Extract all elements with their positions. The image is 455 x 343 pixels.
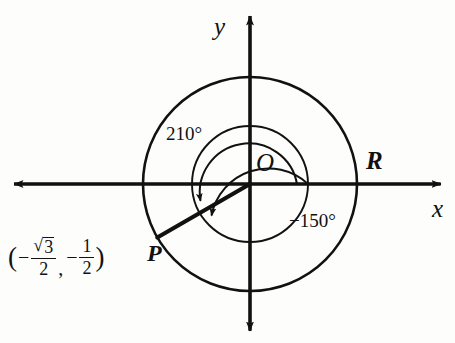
- coord-x-fraction: √3 2: [31, 236, 56, 278]
- coord-x-radicand: 3: [43, 237, 54, 257]
- coord-y-denominator: 2: [79, 257, 94, 278]
- coord-y-fraction: 1 2: [79, 237, 94, 277]
- point-p-coordinates: ( − √3 2 , − 1 2 ): [8, 236, 104, 278]
- origin-label: O: [256, 150, 274, 175]
- coord-y-numerator: 1: [80, 237, 93, 257]
- coord-x-negative-sign: −: [17, 247, 30, 267]
- point-p-label: P: [147, 241, 162, 265]
- terminal-ray-op: [157, 184, 250, 238]
- angle-label-positive: 210°: [166, 124, 202, 143]
- coord-x-denominator: 2: [31, 258, 56, 279]
- radical-sign-icon: √: [33, 236, 43, 255]
- coord-open-paren: (: [8, 244, 17, 271]
- coord-close-paren: ): [95, 244, 104, 271]
- point-r-label: R: [366, 148, 383, 173]
- angle-label-negative: −150°: [289, 211, 336, 230]
- diagram-canvas: [0, 0, 455, 343]
- coord-separator: ,: [57, 258, 65, 278]
- x-axis-label: x: [432, 196, 443, 221]
- coord-x-numerator: √3: [31, 236, 56, 258]
- y-axis-label: y: [214, 14, 225, 39]
- circle-diagram-figure: y x O R P 210° −150° ( − √3 2 , − 1 2 ): [0, 0, 455, 343]
- coord-y-negative-sign: −: [65, 247, 78, 267]
